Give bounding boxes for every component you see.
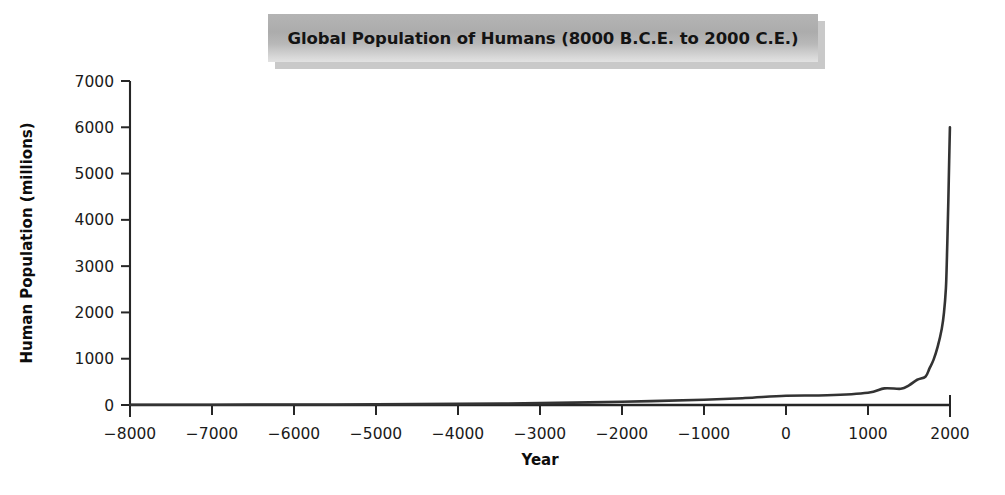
- x-tick-label: 2000: [930, 425, 969, 443]
- population-curve: [130, 127, 950, 404]
- x-axis-tick-labels: −8000−7000−6000−5000−4000−3000−2000−1000…: [104, 425, 970, 443]
- x-tick-label: −8000: [104, 425, 156, 443]
- y-tick-label: 2000: [75, 304, 114, 322]
- x-tick-label: −4000: [432, 425, 484, 443]
- y-axis-ticks: [121, 81, 130, 405]
- x-tick-label: −7000: [186, 425, 238, 443]
- x-tick-label: 0: [781, 425, 791, 443]
- chart-plot-area: 01000200030004000500060007000 −8000−7000…: [0, 0, 1005, 495]
- y-axis-tick-labels: 01000200030004000500060007000: [75, 73, 114, 415]
- y-tick-label: 0: [104, 397, 114, 415]
- chart-figure: Global Population of Humans (8000 B.C.E.…: [0, 0, 1005, 495]
- y-tick-label: 6000: [75, 119, 114, 137]
- y-tick-label: 7000: [75, 73, 114, 91]
- x-tick-label: −3000: [514, 425, 566, 443]
- x-tick-label: −2000: [596, 425, 648, 443]
- x-tick-label: −1000: [678, 425, 730, 443]
- x-tick-label: −6000: [268, 425, 320, 443]
- y-axis-title: Human Population (millions): [18, 122, 36, 363]
- x-tick-label: 1000: [848, 425, 887, 443]
- y-tick-label: 4000: [75, 211, 114, 229]
- x-axis-title: Year: [520, 451, 559, 469]
- y-tick-label: 1000: [75, 350, 114, 368]
- y-tick-label: 5000: [75, 165, 114, 183]
- x-tick-label: −5000: [350, 425, 402, 443]
- y-tick-label: 3000: [75, 258, 114, 276]
